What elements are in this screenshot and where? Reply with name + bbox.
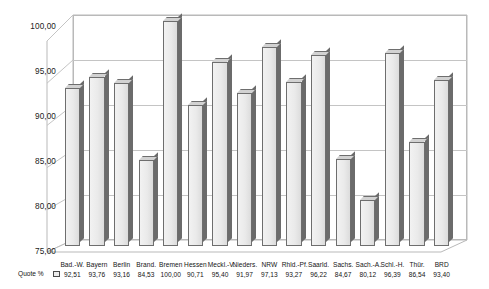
value-label: 84,67 bbox=[331, 271, 356, 278]
value-label: 80,12 bbox=[356, 271, 381, 278]
value-label: 84,53 bbox=[134, 271, 159, 278]
category-label: Thür. bbox=[405, 261, 430, 268]
value-label: 91,97 bbox=[232, 271, 257, 278]
category-label: Meckl.-V. bbox=[208, 261, 233, 268]
value-label: 100,00 bbox=[159, 271, 184, 278]
value-label: 93,27 bbox=[282, 271, 307, 278]
category-label: Hessen bbox=[183, 261, 208, 268]
category-value-table: Bad.-W.92,51Bayern93,76Berlin93,16Brand.… bbox=[0, 0, 489, 289]
value-label: 95,40 bbox=[208, 271, 233, 278]
category-label: Bad.-W. bbox=[60, 261, 85, 268]
value-label: 96,22 bbox=[306, 271, 331, 278]
value-label: 93,76 bbox=[85, 271, 110, 278]
category-label: Nieders. bbox=[232, 261, 257, 268]
category-label: Schl.-H. bbox=[380, 261, 405, 268]
category-label: Rhld.-Pf. bbox=[282, 261, 307, 268]
value-label: 96,39 bbox=[380, 271, 405, 278]
value-label: 92,51 bbox=[60, 271, 85, 278]
category-label: BRD bbox=[429, 261, 454, 268]
value-label: 97,13 bbox=[257, 271, 282, 278]
value-label: 86,54 bbox=[405, 271, 430, 278]
category-label: Bayern bbox=[85, 261, 110, 268]
value-label: 90,71 bbox=[183, 271, 208, 278]
chart-container: 100,0095,0090,0085,0080,0075,00 Bad.-W.9… bbox=[0, 0, 489, 289]
series-legend-label: Quote % bbox=[18, 270, 44, 277]
category-label: Saarld. bbox=[306, 261, 331, 268]
value-label: 93,16 bbox=[109, 271, 134, 278]
value-label: 93,40 bbox=[429, 271, 454, 278]
category-label: Sach.-A. bbox=[356, 261, 381, 268]
category-label: Sachs. bbox=[331, 261, 356, 268]
category-label: NRW bbox=[257, 261, 282, 268]
category-label: Berlin bbox=[109, 261, 134, 268]
category-label: Brand. bbox=[134, 261, 159, 268]
legend-swatch-icon bbox=[53, 271, 60, 277]
category-label: Bremen bbox=[159, 261, 184, 268]
